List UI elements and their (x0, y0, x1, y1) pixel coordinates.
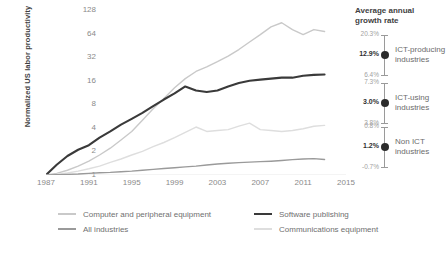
group-label-line1: ICT-producing (395, 45, 445, 54)
x-tick-label: 2003 (197, 178, 237, 187)
series-line (46, 23, 325, 175)
x-tick-label: 1999 (155, 178, 195, 187)
range-cap (381, 35, 388, 36)
growth-group: 7.3%3.0%3.8%ICT-usingindustries (355, 80, 447, 120)
x-tick-label: 1995 (112, 178, 152, 187)
range-value: 0.8% (349, 122, 379, 129)
range-value: 20.3% (349, 30, 379, 37)
legend-swatch (254, 213, 272, 215)
x-tick-label: 1987 (26, 178, 66, 187)
group-label-line2: industries (395, 55, 429, 64)
legend-label: Software publishing (279, 210, 349, 219)
mean-marker (381, 51, 389, 59)
legend-label: Communications equipment (279, 225, 378, 234)
panel-title-line2: growth rate (355, 16, 399, 25)
chart-page: Normalized US labor productivity 1248163… (0, 0, 447, 255)
range-value: 7.3% (349, 78, 379, 85)
range-cap (381, 167, 388, 168)
group-label-line1: ICT-using (395, 93, 429, 102)
group-label-line2: industries (395, 147, 429, 156)
plot-area (46, 10, 346, 175)
panel-title-line1: Average annual (355, 6, 414, 15)
mean-marker (381, 99, 389, 107)
range-cap (381, 75, 388, 76)
legend-item[interactable]: Computer and peripheral equipment (58, 210, 211, 219)
range-cap (381, 127, 388, 128)
series-lines (46, 10, 346, 175)
panel-title: Average annual growth rate (355, 6, 435, 26)
mean-marker (381, 143, 389, 151)
growth-group: 0.8%1.2%-0.7%Non ICTindustries (355, 124, 447, 164)
range-value: 6.4% (349, 71, 379, 78)
group-label: ICT-producingindustries (395, 45, 447, 64)
mean-value: 12.9% (349, 50, 379, 57)
legend-item[interactable]: Software publishing (254, 210, 349, 219)
legend-item[interactable]: All industries (58, 225, 128, 234)
group-label-line2: industries (395, 103, 429, 112)
x-tick-label: 2007 (240, 178, 280, 187)
y-axis-title: Normalized US labor productivity (23, 0, 32, 142)
legend-label: Computer and peripheral equipment (83, 210, 211, 219)
group-label: ICT-usingindustries (395, 93, 447, 112)
legend-label: All industries (83, 225, 128, 234)
range-cap (381, 83, 388, 84)
legend-swatch (58, 213, 76, 215)
x-tick-label: 1991 (69, 178, 109, 187)
group-label-line1: Non ICT (395, 137, 425, 146)
range-value: -0.7% (349, 163, 379, 170)
mean-value: 1.2% (349, 142, 379, 149)
growth-rate-panel: Average annual growth rate 20.3%12.9%6.4… (355, 6, 447, 181)
x-tick-label: 2011 (283, 178, 323, 187)
mean-value: 3.0% (349, 98, 379, 105)
legend-item[interactable]: Communications equipment (254, 225, 378, 234)
legend-swatch (254, 228, 272, 230)
legend-swatch (58, 228, 76, 230)
group-label: Non ICTindustries (395, 137, 447, 156)
growth-group: 20.3%12.9%6.4%ICT-producingindustries (355, 32, 447, 72)
